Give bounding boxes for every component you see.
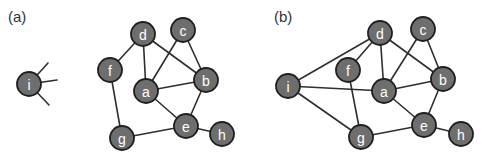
edge-i-a (288, 86, 384, 91)
node-label-g: g (118, 131, 126, 147)
node-label-b: b (439, 72, 447, 88)
node-b: b (194, 68, 218, 92)
node-c: c (411, 17, 435, 41)
node-c: c (171, 18, 195, 42)
edge-i-d (288, 33, 380, 86)
graph-diagram: (a) idcfbaehg (b) idcfbaehg (0, 0, 489, 163)
node-label-h: h (218, 127, 226, 143)
node-label-i: i (27, 77, 30, 93)
node-label-a: a (380, 84, 388, 100)
node-label-b: b (202, 73, 210, 89)
node-label-f: f (346, 63, 350, 79)
node-h: h (210, 122, 234, 146)
node-i: i (17, 72, 41, 96)
node-d: d (368, 21, 392, 45)
node-f: f (336, 58, 360, 82)
node-label-a: a (142, 84, 150, 100)
node-label-e: e (420, 118, 428, 134)
node-label-e: e (182, 119, 190, 135)
panel-a: (a) idcfbaehg (8, 8, 234, 150)
node-b: b (431, 67, 455, 91)
panel-b: (b) idcfbaehg (274, 8, 473, 149)
panel-a-label: (a) (8, 8, 26, 25)
node-label-f: f (108, 63, 112, 79)
node-label-i: i (286, 79, 289, 95)
node-a: a (372, 79, 396, 103)
node-e: e (174, 114, 198, 138)
node-label-c: c (420, 22, 427, 38)
node-e: e (412, 113, 436, 137)
node-g: g (110, 126, 134, 150)
panel-b-label: (b) (274, 8, 292, 25)
edge-i-g (288, 86, 361, 137)
node-i: i (276, 74, 300, 98)
node-label-c: c (180, 23, 187, 39)
node-h: h (449, 122, 473, 146)
node-label-d: d (376, 26, 384, 42)
node-g: g (349, 125, 373, 149)
node-a: a (134, 79, 158, 103)
node-f: f (98, 58, 122, 82)
node-d: d (131, 22, 155, 46)
node-label-d: d (139, 27, 147, 43)
node-label-h: h (457, 127, 465, 143)
node-label-g: g (357, 130, 365, 146)
